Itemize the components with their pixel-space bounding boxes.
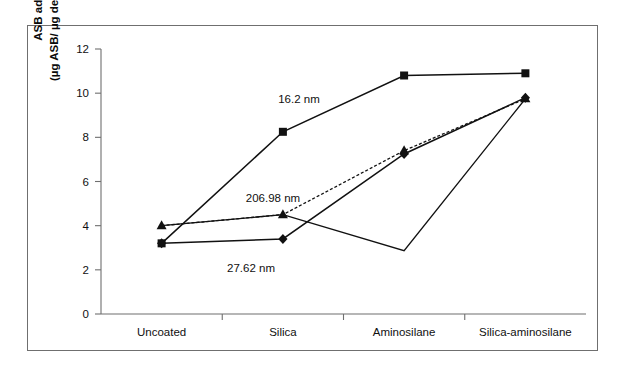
y-axis-title-line2: (µg ASB/ µg de nanopartículas) [47,0,63,81]
series-206-98-nm-marker [278,209,288,218]
x-axis-tick-labels: Uncoated Silica Aminosilane Silica-amino… [137,326,572,338]
series-16-2-nm-marker [279,128,287,136]
series-27-62-nm-marker [278,234,287,244]
line-chart-plot: 12 10 8 6 4 2 0 Uncoated Silica Aminosil… [28,26,597,350]
y-axis-title-line1: ASB adsorbidos [31,0,47,41]
y-axis-ticks [95,49,101,314]
y-axis-tick-labels: 12 10 8 6 4 2 0 [76,43,89,320]
y-tick-label-10: 10 [76,87,89,99]
y-tick-label-2: 2 [83,264,89,276]
y-axis-title: ASB adsorbidos (µg ASB/ µg de nanopartíc… [31,0,63,86]
x-tick-label-silica-aminosilane: Silica-aminosilane [479,326,572,338]
y-tick-label-4: 4 [83,220,90,232]
series-206-98-nm-line [162,99,526,226]
chart-frame: 12 10 8 6 4 2 0 Uncoated Silica Aminosil… [27,25,598,351]
series-206-98-nm [157,93,531,250]
x-axis-ticks [222,314,465,320]
figure-root: 12 10 8 6 4 2 0 Uncoated Silica Aminosil… [0,0,625,370]
x-tick-label-uncoated: Uncoated [137,326,186,338]
series-27-62-nm [157,93,530,249]
x-tick-label-silica: Silica [269,326,297,338]
x-tick-label-aminosilane: Aminosilane [373,326,436,338]
series-27-62-nm-line [162,98,526,244]
series-16-2-nm-marker [400,72,408,80]
y-tick-label-8: 8 [83,131,89,143]
y-tick-label-12: 12 [76,43,89,55]
annotation-16-2-nm: 16.2 nm [278,93,320,105]
series-16-2-nm-marker [521,69,529,77]
y-tick-label-6: 6 [83,176,89,188]
annotation-27-62-nm: 27.62 nm [227,262,275,274]
series-16-2-nm-line [162,73,526,243]
series-27-62-nm-marker [400,149,409,159]
annotation-206-98-nm: 206.98 nm [246,192,300,204]
series-206-98-nm-marker [157,220,167,229]
y-tick-label-0: 0 [83,308,89,320]
